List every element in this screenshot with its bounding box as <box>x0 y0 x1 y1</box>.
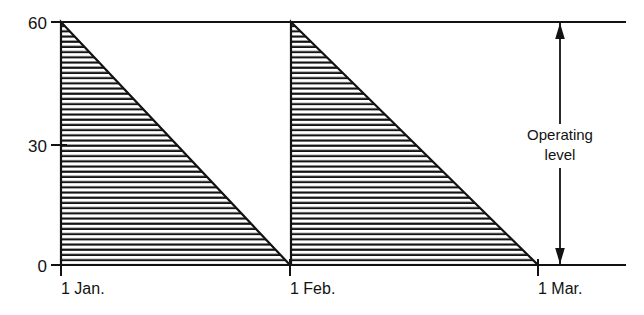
x-tick-label-jan: 1 Jan. <box>61 280 105 297</box>
x-tick-label-feb: 1 Feb. <box>290 280 335 297</box>
y-tick-label-0: 0 <box>38 257 47 276</box>
chart-canvas: 60 30 0 1 Jan. 1 Feb. 1 Mar. Operating l… <box>0 0 644 315</box>
operating-level-label-line2: level <box>545 146 576 163</box>
inventory-sawtooth-figure: 60 30 0 1 Jan. 1 Feb. 1 Mar. Operating l… <box>0 0 644 315</box>
y-tick-label-60: 60 <box>28 14 47 33</box>
x-tick-label-mar: 1 Mar. <box>538 280 582 297</box>
y-tick-label-30: 30 <box>28 137 47 156</box>
operating-level-label-line1: Operating <box>527 126 593 143</box>
